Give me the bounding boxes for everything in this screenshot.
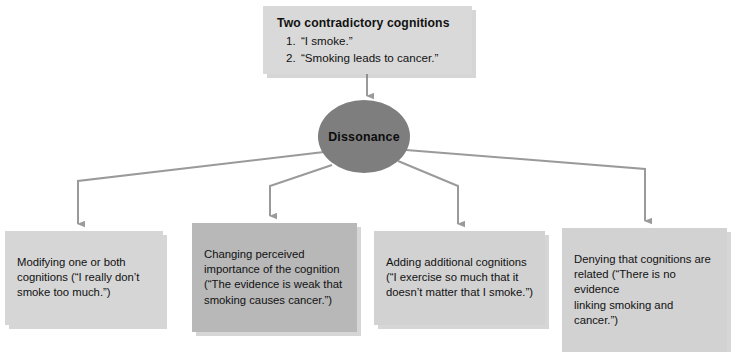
outcome-node-denying-relation: Denying that cognitions are related (“Th… [562, 228, 727, 352]
connector-circle-to-outcome-0 [78, 152, 324, 224]
connector-circle-to-outcome-3 [406, 150, 645, 221]
dissonance-node: Dissonance [318, 100, 410, 173]
cognition-item: “I smoke.” [299, 33, 461, 49]
outcome-text: Modifying one or both cognitions (“I rea… [5, 246, 163, 309]
connector-circle-to-outcome-2 [398, 161, 458, 224]
outcome-node-changing-importance: Changing perceived importance of the cog… [192, 223, 357, 332]
contradictory-cognitions-node: Two contradictory cognitions “I smoke.” … [263, 6, 472, 74]
outcome-text: Adding additional cognitions (“I exercis… [374, 246, 545, 309]
connector-circle-to-outcome-1 [270, 165, 332, 216]
cognition-item: “Smoking leads to cancer.” [299, 50, 461, 66]
outcome-node-modifying-cognitions: Modifying one or both cognitions (“I rea… [5, 231, 163, 325]
outcome-node-adding-cognitions: Adding additional cognitions (“I exercis… [374, 231, 545, 325]
contradictory-cognitions-content: Two contradictory cognitions “I smoke.” … [263, 6, 472, 74]
dissonance-label: Dissonance [328, 130, 400, 144]
contradictory-cognitions-list: “I smoke.” “Smoking leads to cancer.” [275, 33, 461, 65]
outcome-text: Changing perceived importance of the cog… [192, 238, 357, 317]
outcome-text: Denying that cognitions are related (“Th… [562, 243, 727, 337]
contradictory-cognitions-heading: Two contradictory cognitions [277, 15, 461, 31]
